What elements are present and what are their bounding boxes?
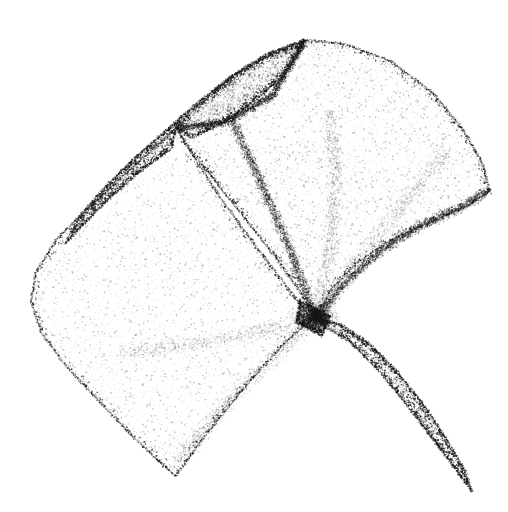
stippled-surface-plot xyxy=(0,0,508,512)
figure-canvas-container: Stippled folded parametric surface Point… xyxy=(0,0,508,512)
